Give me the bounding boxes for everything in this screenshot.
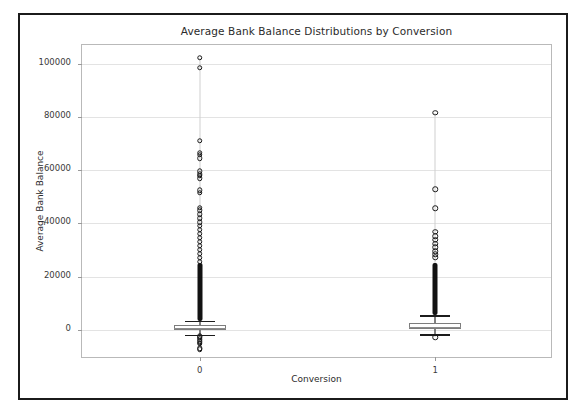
outlier-point — [197, 259, 203, 265]
x-axis-label: Conversion — [81, 374, 552, 384]
y-tick-mark-80000 — [78, 117, 82, 118]
gridline-y-60000 — [82, 170, 551, 171]
plot-area: 01 — [81, 44, 552, 358]
outlier-point — [433, 186, 439, 192]
y-tick-label-0: 0 — [0, 323, 71, 333]
chart-title: Average Bank Balance Distributions by Co… — [81, 25, 552, 37]
matplotlib-figure: Average Bank Balance Distributions by Co… — [0, 0, 586, 419]
y-axis-label: Average Bank Balance — [33, 44, 47, 358]
x-tick-mark-1 — [435, 357, 436, 361]
outlier-point — [197, 138, 203, 144]
y-tick-mark-20000 — [78, 277, 82, 278]
gridline-y-20000 — [82, 277, 551, 278]
outlier-point — [197, 333, 203, 339]
gridline-y-0 — [82, 330, 551, 331]
median-line — [174, 328, 226, 329]
y-tick-mark-0 — [78, 330, 82, 331]
gridline-y-80000 — [82, 117, 551, 118]
outlier-dense-cluster — [433, 263, 438, 315]
gridline-y-100000 — [82, 64, 551, 65]
outlier-point — [433, 205, 439, 211]
y-tick-mark-100000 — [78, 64, 82, 65]
x-tick-label-0: 0 — [197, 365, 202, 375]
y-tick-label-100000: 100000 — [0, 57, 71, 67]
outlier-point — [197, 55, 203, 61]
outlier-point — [197, 155, 203, 161]
x-tick-label-1: 1 — [433, 365, 438, 375]
y-tick-mark-40000 — [78, 223, 82, 224]
boxplot-0 — [174, 45, 226, 357]
boxplot-1 — [409, 45, 461, 357]
outlier-point — [197, 190, 203, 196]
outlier-dense-cluster — [197, 263, 202, 321]
outlier-point — [433, 335, 439, 341]
outlier-point — [197, 65, 203, 71]
y-tick-label-40000: 40000 — [0, 216, 71, 226]
outlier-point — [197, 175, 203, 181]
gridline-y-40000 — [82, 223, 551, 224]
outlier-point — [433, 255, 439, 261]
cap-upper — [185, 321, 215, 323]
outlier-point — [433, 110, 439, 116]
y-tick-mark-60000 — [78, 170, 82, 171]
x-tick-mark-0 — [200, 357, 201, 361]
cap-upper — [420, 315, 450, 317]
y-tick-label-60000: 60000 — [0, 163, 71, 173]
median-line — [409, 327, 461, 328]
y-tick-label-80000: 80000 — [0, 110, 71, 120]
y-tick-label-20000: 20000 — [0, 270, 71, 280]
